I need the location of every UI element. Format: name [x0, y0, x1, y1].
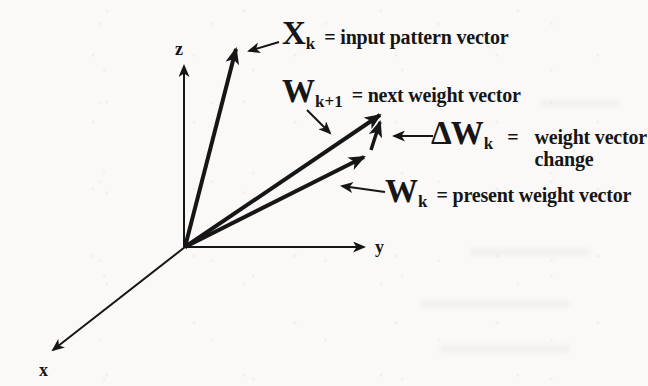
figure-canvas: z y x Xk = input pattern vector Wk+1 = n…	[0, 0, 648, 386]
vector-wk	[185, 157, 364, 247]
wk-symbol: Wk	[385, 175, 427, 208]
dwk-symbol: ΔWk	[431, 117, 493, 150]
x-axis	[53, 247, 185, 350]
wk-subscript: k	[418, 192, 427, 211]
xk-label: Xk = input pattern vector	[282, 17, 509, 50]
wk1-description: = next weight vector	[352, 84, 521, 107]
xk-symbol: Xk	[282, 17, 315, 50]
wk1-symbol: Wk+1	[282, 75, 343, 108]
dwk-label: ΔWk = weight vectorchange	[431, 117, 647, 170]
dwk-subscript: k	[484, 134, 493, 153]
wk-label: Wk = present weight vector	[385, 175, 631, 208]
wk1-pointer-arrow	[307, 110, 330, 133]
dwk-equals: =	[507, 126, 518, 149]
y-axis-label: y	[375, 238, 384, 256]
wk-description: = present weight vector	[436, 184, 631, 207]
xk-subscript: k	[306, 34, 315, 53]
vector-delta-wk	[371, 122, 380, 150]
wk1-label: Wk+1 = next weight vector	[282, 75, 521, 108]
xk-description: = input pattern vector	[324, 26, 508, 49]
xk-pointer-arrow	[249, 42, 279, 51]
wk1-subscript: k+1	[315, 92, 343, 111]
dwk-description: weight vectorchange	[535, 126, 647, 170]
z-axis-label: z	[175, 40, 183, 58]
x-axis-label: x	[39, 361, 48, 379]
wk-pointer-arrow	[342, 186, 385, 192]
